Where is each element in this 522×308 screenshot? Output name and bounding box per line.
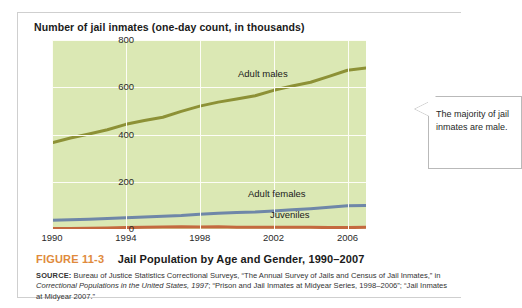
series-label-adult-males: Adult males bbox=[238, 68, 288, 79]
x-axis-tick: 1990 bbox=[41, 232, 62, 243]
series-label-adult-females: Adult females bbox=[248, 188, 306, 199]
figure-number: FIGURE 11-3 bbox=[36, 253, 104, 265]
x-axis-tick: 1998 bbox=[189, 232, 210, 243]
y-axis-tick: 200 bbox=[94, 176, 134, 187]
figure-card: Number of jail inmates (one-day count, i… bbox=[17, 12, 461, 298]
source-note: SOURCE: Bureau of Justice Statistics Cor… bbox=[36, 271, 452, 302]
source-text-part-1: Bureau of Justice Statistics Correctiona… bbox=[71, 271, 440, 280]
y-axis-tick: 800 bbox=[94, 34, 134, 45]
source-label: SOURCE: bbox=[36, 271, 71, 280]
y-axis-tick: 400 bbox=[94, 129, 134, 140]
y-axis-tick: 600 bbox=[94, 81, 134, 92]
x-axis-tick: 1994 bbox=[115, 232, 136, 243]
source-text-italic: Correctional Populations in the United S… bbox=[36, 281, 208, 290]
chart-plot-wrapper: 800 600 400 200 0 1990 1994 1998 2002 20… bbox=[52, 40, 452, 245]
callout-annotation: The majority of jail inmates are male. bbox=[428, 96, 522, 169]
x-axis-tick: 2002 bbox=[263, 232, 284, 243]
x-axis-tick: 2006 bbox=[337, 232, 358, 243]
callout-pointer bbox=[415, 102, 429, 116]
chart-axis-title: Number of jail inmates (one-day count, i… bbox=[34, 21, 305, 33]
series-label-juveniles: Juveniles bbox=[270, 209, 310, 220]
figure-title: Jail Population by Age and Gender, 1990–… bbox=[118, 253, 365, 265]
callout-text: The majority of jail inmates are male. bbox=[436, 108, 516, 134]
series-line-adult-females bbox=[52, 205, 366, 220]
figure-caption: FIGURE 11-3 Jail Population by Age and G… bbox=[36, 249, 448, 267]
